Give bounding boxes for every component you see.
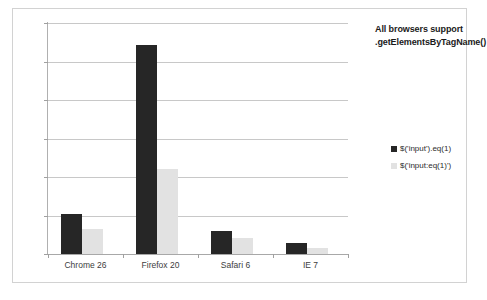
bar-chrome-26-series-2 bbox=[82, 229, 103, 254]
x-tick-mark bbox=[273, 254, 274, 258]
x-tick-mark bbox=[48, 254, 49, 258]
x-tick-mark bbox=[348, 254, 349, 258]
legend-item-1[interactable]: $('input').eq(1) bbox=[391, 140, 451, 157]
x-axis-label-firefox-20: Firefox 20 bbox=[123, 260, 198, 271]
bar-ie-7-series-1 bbox=[286, 243, 307, 254]
x-axis-label-chrome-26: Chrome 26 bbox=[48, 260, 123, 271]
bar-firefox-20-series-2 bbox=[157, 169, 178, 254]
legend-swatch-icon-1 bbox=[391, 146, 397, 152]
bar-safari-6-series-2 bbox=[232, 238, 253, 254]
bar-firefox-20-series-1 bbox=[136, 45, 157, 254]
x-axis-label-ie-7: IE 7 bbox=[273, 260, 348, 271]
chart-legend: $('input').eq(1)$('input:eq(1)') bbox=[391, 140, 451, 174]
gridline bbox=[48, 100, 348, 101]
annotation-line-1: All browsers support bbox=[375, 23, 487, 36]
chart-container: 050001000015000200002500030000 Chrome 26… bbox=[12, 8, 467, 283]
x-tick-mark bbox=[198, 254, 199, 258]
x-tick-mark bbox=[123, 254, 124, 258]
gridline bbox=[48, 216, 348, 217]
legend-label-1: $('input').eq(1) bbox=[400, 144, 451, 153]
annotation-line-2: .getElementsByTagName() bbox=[375, 36, 487, 49]
bar-chrome-26-series-1 bbox=[61, 214, 82, 254]
legend-item-2[interactable]: $('input:eq(1)') bbox=[391, 157, 451, 174]
chart-annotation: All browsers support .getElementsByTagNa… bbox=[375, 23, 487, 48]
legend-label-2: $('input:eq(1)') bbox=[400, 161, 451, 170]
bar-safari-6-series-1 bbox=[211, 231, 232, 254]
gridline bbox=[48, 23, 348, 24]
legend-swatch-icon-2 bbox=[391, 163, 397, 169]
x-axis-label-safari-6: Safari 6 bbox=[198, 260, 273, 271]
gridline bbox=[48, 177, 348, 178]
gridline bbox=[48, 139, 348, 140]
gridline bbox=[48, 62, 348, 63]
bar-ie-7-series-2 bbox=[307, 248, 328, 254]
y-axis-tick-labels: 050001000015000200002500030000 bbox=[13, 9, 56, 300]
